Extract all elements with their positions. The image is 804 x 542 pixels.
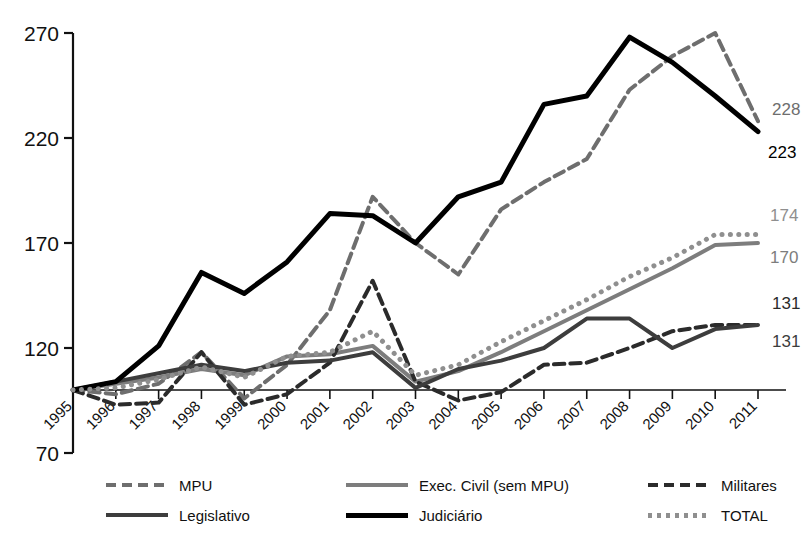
legend-label: Legislativo <box>179 507 250 524</box>
legend-item-judici-rio[interactable]: Judiciário <box>346 507 648 524</box>
legend-label: Exec. Civil (sem MPU) <box>419 477 569 494</box>
legend-item-mpu[interactable]: MPU <box>106 477 346 494</box>
legend-item-militares[interactable]: Militares <box>648 477 777 494</box>
x-axis-tick-label: 2010 <box>682 397 718 433</box>
x-axis-tick-label: 2002 <box>339 397 375 433</box>
y-axis-tick-label: 120 <box>24 337 59 360</box>
x-axis-tick-label: 1995 <box>40 397 76 433</box>
x-axis-tick-label: 2006 <box>510 397 546 433</box>
y-axis-tick-label: 270 <box>24 22 59 45</box>
y-axis-tick-label: 70 <box>36 442 59 465</box>
y-axis-tick-label: 170 <box>24 232 59 255</box>
x-axis-tick-label: 2001 <box>296 397 332 433</box>
x-axis-tick-label: 2004 <box>425 397 461 433</box>
x-axis-tick-label: 2007 <box>553 397 589 433</box>
series-end-label-mpu: 228 <box>772 100 800 119</box>
x-axis-tick-label: 2008 <box>596 397 632 433</box>
legend-label: Judiciário <box>419 507 482 524</box>
line-chart-svg: 7012017022027019951996199719981999200020… <box>0 0 804 470</box>
x-axis-tick-label: 2011 <box>725 397 760 432</box>
legend-label: MPU <box>179 477 212 494</box>
series-line-mpu <box>73 33 758 398</box>
legend-item-total[interactable]: TOTAL <box>648 507 768 524</box>
y-axis-tick-label: 220 <box>24 127 59 150</box>
legend-swatch-dotted-line-icon <box>648 513 710 518</box>
x-axis-tick-label: 2005 <box>468 397 504 433</box>
chart-figure: 7012017022027019951996199719981999200020… <box>0 0 804 542</box>
legend-swatch-dashed-line-icon <box>648 483 710 487</box>
legend-swatch-solid-line-icon <box>346 513 408 518</box>
legend-item-exec-civil-sem-mpu[interactable]: Exec. Civil (sem MPU) <box>346 477 648 494</box>
legend-label: TOTAL <box>721 507 768 524</box>
x-axis-tick-label: 2003 <box>382 397 418 433</box>
series-end-label-judici-rio: 223 <box>768 143 796 162</box>
chart-legend: MPUExec. Civil (sem MPU)Militares Legisl… <box>0 470 804 542</box>
legend-row-2: LegislativoJudiciárioTOTAL <box>0 500 804 530</box>
legend-label: Militares <box>721 477 777 494</box>
legend-item-legislativo[interactable]: Legislativo <box>106 507 346 524</box>
series-end-label-legislativo: 131 <box>772 332 800 351</box>
legend-swatch-dashed-line-icon <box>106 483 168 487</box>
legend-swatch-solid-line-icon <box>346 483 408 487</box>
legend-row-1: MPUExec. Civil (sem MPU)Militares <box>0 470 804 500</box>
series-end-label-total: 174 <box>770 206 798 225</box>
chart-plot-area: 7012017022027019951996199719981999200020… <box>0 0 804 470</box>
x-axis-tick-label: 1998 <box>168 397 204 433</box>
series-end-label-exec-civil-sem-mpu: 170 <box>770 248 798 267</box>
legend-swatch-solid-line-icon <box>106 513 168 517</box>
x-axis-tick-label: 2009 <box>639 397 675 433</box>
series-end-label-militares: 131 <box>772 294 800 313</box>
